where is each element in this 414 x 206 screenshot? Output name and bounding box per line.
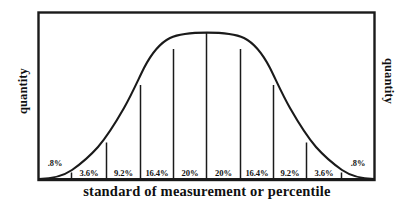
band-label-5: 20%: [215, 168, 232, 178]
distribution-plot: .8% 3.6% 9.2% 16.4% 20% 20% 16.4% 9.2% 3…: [0, 0, 414, 206]
bell-curve-figure: quantity quantity .8% 3.6% 9.2% 16.4% 20: [0, 0, 414, 206]
band-label-7: 9.2%: [281, 168, 300, 178]
band-label-6: 16.4%: [245, 168, 268, 178]
band-label-0: .8%: [48, 159, 62, 168]
band-label-8: 3.6%: [315, 168, 334, 178]
x-axis-label: standard of measurement or percentile: [0, 183, 414, 200]
band-label-3: 16.4%: [145, 168, 168, 178]
band-label-9: .8%: [351, 159, 365, 168]
band-label-2: 9.2%: [114, 168, 133, 178]
band-label-1: 3.6%: [80, 168, 99, 178]
band-label-4: 20%: [182, 168, 199, 178]
